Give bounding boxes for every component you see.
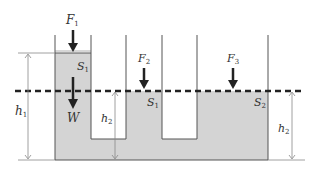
label-f2: F2 bbox=[137, 52, 150, 66]
label-f3: F3 bbox=[226, 52, 239, 66]
label-h1: h1 bbox=[15, 104, 27, 119]
arrow-f2-icon bbox=[139, 68, 149, 89]
label-f1: F1 bbox=[65, 13, 79, 28]
arrow-f1-icon bbox=[68, 30, 78, 52]
label-h2-right: h2 bbox=[278, 122, 290, 136]
label-w: W bbox=[67, 111, 81, 125]
hydraulic-vessels-diagram: F1 S1 W h1 F2 S1 h2 F3 S2 h2 bbox=[0, 0, 318, 170]
label-h2-mid: h2 bbox=[101, 112, 113, 126]
arrow-f3-icon bbox=[228, 68, 238, 89]
